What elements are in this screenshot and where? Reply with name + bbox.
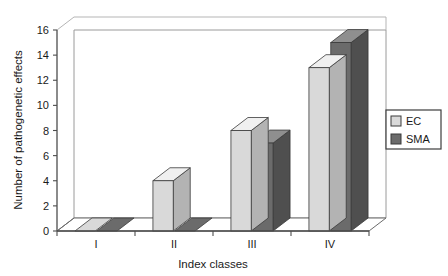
x-category-label: I [94,238,97,250]
bar-side-face [273,130,290,231]
bar-side-face [329,55,346,231]
legend-label-ec: EC [406,115,421,127]
y-tick-label: 6 [43,150,49,162]
y-axis-title: Number of pathogenetic effects [12,50,24,210]
y-tick-group: 0246810121416 [37,24,57,237]
y-tick-label: 14 [37,49,49,61]
x-axis-title: Index classes [178,258,248,270]
bar-group-III [231,118,290,232]
bar-side-face [351,30,368,231]
legend-swatch-sma [391,134,401,144]
bar-front-face [153,181,173,231]
y-tick-label: 0 [43,225,49,237]
bar-chart: 0246810121416 Number of pathogenetic eff… [0,0,448,276]
y-tick-label: 16 [37,24,49,36]
y-tick-label: 10 [37,99,49,111]
x-axis: IIIIIIIV Index classes [57,231,369,270]
x-tick-group [57,231,369,236]
y-axis: 0246810121416 Number of pathogenetic eff… [12,24,57,237]
legend[interactable]: ECSMA [386,110,441,149]
y-tick-label: 2 [43,200,49,212]
x-category-label: III [247,238,256,250]
chart-svg: 0246810121416 Number of pathogenetic eff… [0,0,448,276]
y-tick-label: 8 [43,125,49,137]
x-category-label: II [171,238,177,250]
x-category-label-group: IIIIIIIV [94,238,335,250]
bar-front-face [231,131,251,232]
legend-swatch-ec [391,116,401,126]
wall-top-depth-edge [57,17,74,30]
y-tick-label: 4 [43,175,49,187]
y-tick-label: 12 [37,74,49,86]
bar-front-face [309,68,329,231]
legend-label-sma: SMA [406,133,431,145]
x-category-label: IV [325,238,336,250]
bar-side-face [251,118,268,232]
